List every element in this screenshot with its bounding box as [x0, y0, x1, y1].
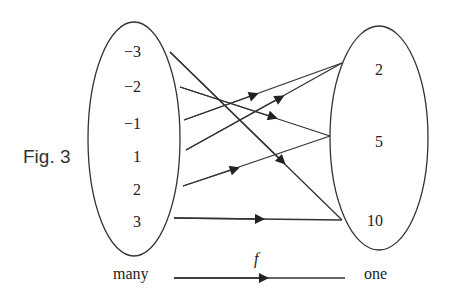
domain-element: 3: [133, 213, 141, 230]
one-label: one: [364, 265, 387, 282]
codomain-element: 2: [375, 61, 383, 78]
codomain-element: 10: [367, 212, 383, 229]
figure-label: Fig. 3: [23, 146, 71, 167]
function-label: f: [254, 250, 261, 268]
domain-element: 2: [133, 181, 141, 198]
domain-element: −2: [124, 78, 141, 95]
domain-element: 1: [133, 148, 141, 165]
domain-element: −1: [124, 115, 141, 132]
many-label: many: [113, 265, 149, 283]
mapping-diagram: −3 −2 −1 1 2 3 2 5 10 Fig. 3 many f one: [0, 0, 449, 299]
codomain-element: 5: [375, 133, 383, 150]
mapping-arrows: [170, 52, 342, 220]
domain-element: −3: [124, 43, 141, 60]
